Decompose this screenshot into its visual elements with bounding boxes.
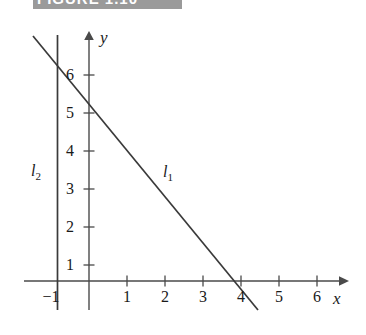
y-axis xyxy=(84,31,94,310)
x-tick-label-5: 5 xyxy=(259,288,299,306)
x-tick-label-2: 2 xyxy=(145,288,185,306)
x-axis xyxy=(24,276,349,286)
x-tick-label-6: 6 xyxy=(297,288,337,306)
x-tick-label--1: −1 xyxy=(31,288,71,306)
plot-canvas xyxy=(0,0,366,335)
y-tick-label-3: 3 xyxy=(46,180,74,198)
y-tick-label-2: 2 xyxy=(46,218,74,236)
y-tick-label-5: 5 xyxy=(46,104,74,122)
line-label-l2: l2 xyxy=(31,162,41,182)
line-label-l2-subscript: 2 xyxy=(35,170,41,182)
line-label-l1: l1 xyxy=(163,163,173,183)
y-tick-label-4: 4 xyxy=(46,142,74,160)
figure-container: FIGURE 1.10 xyxy=(0,0,366,335)
x-tick-label-4: 4 xyxy=(221,288,261,306)
y-tick-label-6: 6 xyxy=(46,66,74,84)
y-tick-label-1: 1 xyxy=(46,256,74,274)
x-tick-label-1: 1 xyxy=(107,288,147,306)
y-axis-label: y xyxy=(100,28,108,48)
line-label-l1-subscript: 1 xyxy=(167,171,173,183)
x-tick-label-3: 3 xyxy=(183,288,223,306)
